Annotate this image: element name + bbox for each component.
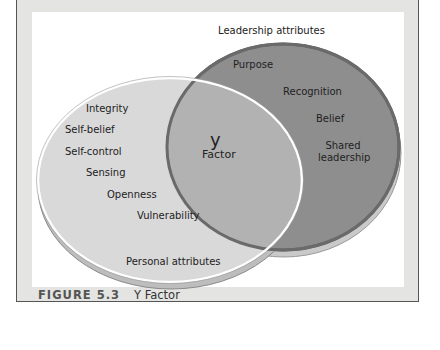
shared-line1: Shared (318, 140, 368, 152)
item-purpose: Purpose (233, 59, 273, 71)
item-sensing: Sensing (86, 167, 126, 179)
figure-caption: FIGURE 5.3Y Factor (38, 288, 180, 302)
item-openness: Openness (107, 189, 157, 201)
leadership-attributes-label: Leadership attributes (218, 25, 325, 37)
item-recognition: Recognition (283, 86, 342, 98)
personal-attributes-label: Personal attributes (126, 256, 221, 268)
item-vulnerability: Vulnerability (137, 210, 200, 222)
item-shared-leadership: Shared leadership (318, 140, 368, 164)
shared-line2: leadership (318, 152, 368, 164)
y-symbol: y (210, 131, 221, 149)
figure-title: Y Factor (134, 288, 180, 302)
item-self-belief: Self-belief (65, 124, 115, 136)
item-integrity: Integrity (86, 103, 128, 115)
item-belief: Belief (316, 113, 344, 125)
factor-label: Factor (202, 149, 236, 161)
item-self-control: Self-control (65, 146, 122, 158)
figure-number: FIGURE 5.3 (38, 288, 120, 302)
